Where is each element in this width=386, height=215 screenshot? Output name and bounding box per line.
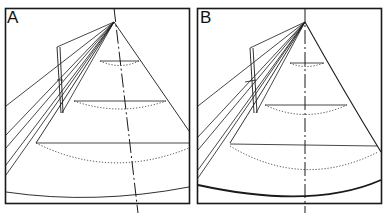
panel-a: A: [0, 0, 193, 215]
panel-label-a: A: [7, 9, 18, 26]
panel-label-b: B: [200, 9, 211, 26]
panel-b-diagram: [193, 0, 386, 215]
panel-b: B: [193, 0, 386, 215]
panel-a-diagram: [0, 0, 193, 215]
